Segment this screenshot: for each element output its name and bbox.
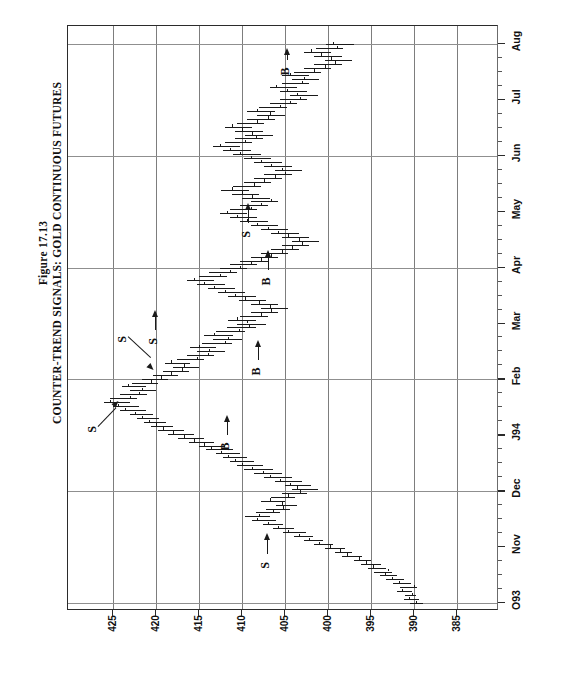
price-bar-close-tick — [214, 286, 215, 288]
price-bar — [202, 343, 231, 344]
price-bar — [386, 579, 403, 580]
price-bar-close-tick — [254, 183, 255, 185]
price-bar-close-tick — [270, 305, 271, 307]
price-bar-close-tick — [337, 46, 338, 48]
price-bar — [275, 170, 303, 171]
price-gridline — [371, 26, 372, 609]
price-bar-close-tick — [275, 175, 276, 177]
time-axis-subtick — [498, 169, 502, 170]
price-bar — [230, 461, 254, 462]
time-axis-tick-label: May — [510, 187, 522, 231]
price-bar-close-tick — [204, 443, 205, 445]
price-bar — [165, 363, 191, 364]
price-bar — [151, 426, 173, 427]
price-bar — [245, 135, 273, 136]
price-bar — [290, 95, 318, 96]
price-bar — [235, 131, 263, 132]
price-bar-close-tick — [270, 498, 271, 500]
signal-label: B — [259, 275, 274, 289]
price-bar — [235, 138, 263, 139]
price-bar-close-tick — [268, 227, 269, 229]
price-bar — [292, 489, 318, 490]
price-bar-close-tick — [163, 427, 164, 429]
time-axis-tick-mark — [498, 434, 505, 435]
price-bar — [285, 485, 311, 486]
price-bar-close-tick — [225, 341, 226, 343]
price-bar-close-tick — [333, 42, 334, 44]
price-bar-close-tick — [366, 561, 367, 563]
price-bar — [342, 556, 363, 557]
signal-arrow-head — [264, 533, 270, 540]
price-bar — [314, 64, 342, 65]
price-bar — [251, 201, 279, 202]
price-bar-close-tick — [261, 258, 262, 260]
price-bar-close-tick — [209, 349, 210, 351]
price-bar-close-tick — [271, 199, 272, 201]
signal-arrow-shaft — [248, 209, 249, 223]
price-bar-close-tick — [261, 160, 262, 162]
price-axis-tick-mark — [112, 610, 113, 616]
price-bar-close-tick — [302, 242, 303, 244]
signal-arrow-head — [152, 310, 158, 317]
price-bar — [177, 359, 205, 360]
price-bar-close-tick — [171, 360, 172, 362]
price-bar — [275, 481, 303, 482]
price-bar — [259, 107, 287, 108]
figure-number: Figure 17.13 — [37, 13, 49, 493]
price-bar-close-tick — [268, 522, 269, 524]
price-gridline — [199, 26, 200, 609]
price-gridline — [285, 26, 286, 609]
price-bar — [264, 477, 292, 478]
time-axis-subtick — [498, 420, 502, 421]
price-bar — [361, 564, 382, 565]
time-axis-subtick — [498, 504, 502, 505]
signal-label: B — [249, 365, 264, 379]
price-bar — [257, 115, 285, 116]
price-bar — [220, 268, 248, 269]
price-bar-close-tick — [259, 514, 260, 516]
time-axis-tick-mark — [498, 546, 505, 547]
price-bar-close-tick — [402, 589, 403, 591]
price-bar — [245, 516, 269, 517]
price-bar-close-tick — [161, 376, 162, 378]
signal-label: S — [258, 559, 273, 573]
price-bar — [220, 213, 248, 214]
price-bar — [130, 414, 152, 415]
time-axis-subtick — [498, 574, 502, 575]
price-axis-tick-mark — [370, 610, 371, 616]
price-bar-close-tick — [257, 223, 258, 225]
price-bar-close-tick — [409, 597, 410, 599]
price-bar-close-tick — [373, 565, 374, 567]
price-bar-close-tick — [314, 69, 315, 71]
time-axis-tick-mark — [498, 43, 505, 44]
price-gridline — [113, 26, 114, 609]
price-bar-close-tick — [280, 479, 281, 481]
price-bar — [213, 339, 242, 340]
price-bar-close-tick — [309, 538, 310, 540]
price-bar-close-tick — [321, 53, 322, 55]
price-bar-close-tick — [242, 463, 243, 465]
price-bar — [273, 528, 294, 529]
time-axis-tick-mark — [498, 378, 505, 379]
price-bar-close-tick — [271, 309, 272, 311]
price-bar — [158, 430, 184, 431]
time-axis-tick-mark — [498, 99, 505, 100]
price-bar-close-tick — [239, 329, 240, 331]
price-bar — [209, 272, 237, 273]
price-bar — [178, 438, 204, 439]
price-bar-close-tick — [288, 494, 289, 496]
price-bar — [233, 154, 261, 155]
time-axis-tick-label: Dec — [510, 466, 522, 510]
price-axis-tick-mark — [327, 610, 328, 616]
time-axis-subtick — [498, 85, 502, 86]
price-bar-close-tick — [228, 337, 229, 339]
price-bar — [256, 512, 280, 513]
price-bar — [294, 72, 322, 73]
price-bar-close-tick — [285, 172, 286, 174]
price-bar — [223, 150, 251, 151]
time-axis-subtick — [498, 406, 502, 407]
price-bar-close-tick — [388, 569, 389, 571]
time-axis-subtick — [498, 141, 502, 142]
price-bar-close-tick — [273, 510, 274, 512]
time-axis-subtick — [498, 336, 502, 337]
